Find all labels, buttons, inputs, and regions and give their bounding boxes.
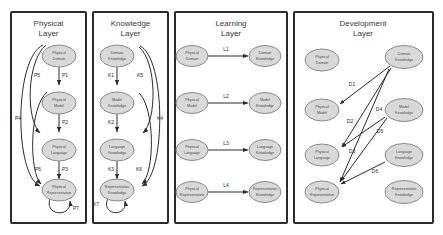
node-label-model-knowledge-1: Model — [112, 98, 122, 102]
panel-title-physical-2: Layer — [38, 29, 58, 38]
node-label-l-physical-model-2: Model — [187, 104, 197, 108]
node-label-l-physical-representation-1: Physical — [185, 187, 199, 191]
node-label-l-physical-domain-2: Domain — [186, 57, 198, 61]
node-label-l-model-knowledge-2: Knowledge — [256, 104, 274, 108]
edge-label-K6: K6 — [136, 166, 142, 172]
node-label-d-physical-model-1: Physical — [315, 105, 329, 109]
node-label-d-representation-knowledge-2: Knowledge — [395, 193, 413, 197]
panel-title-knowledge-2: Layer — [120, 29, 140, 38]
node-label-l-physical-representation-2: Representation — [180, 193, 204, 197]
node-label-physical-representation-2: Representation — [47, 191, 71, 195]
node-label-d-physical-representation-1: Physical — [315, 187, 329, 191]
edge-label-P4: P4 — [15, 115, 21, 121]
node-label-domain-knowledge-2: Knowledge — [108, 57, 126, 61]
edge-label-D4: D4 — [376, 106, 383, 112]
node-label-language-knowledge-1: Language — [109, 145, 125, 149]
node-label-domain-knowledge-1: Domain — [111, 51, 123, 55]
edge-label-P5: P5 — [34, 72, 40, 78]
node-label-l-representation-knowledge-1: Representation — [253, 187, 277, 191]
node-label-model-knowledge-2: Knowledge — [108, 104, 126, 108]
node-label-l-physical-domain-1: Physical — [185, 51, 199, 55]
node-label-physical-domain-1: Physical — [52, 51, 66, 55]
node-label-d-language-knowledge-2: Knowledge — [395, 156, 413, 160]
node-label-l-model-knowledge-1: Model — [260, 98, 270, 102]
node-label-l-language-knowledge-1: Language — [257, 145, 273, 149]
node-label-physical-model-1: Physical — [52, 98, 66, 102]
node-label-l-physical-language-2: Language — [184, 151, 200, 155]
node-label-d-language-knowledge-1: Language — [396, 150, 412, 154]
panel-title-learning-2: Layer — [221, 29, 241, 38]
edge-label-K1: K1 — [108, 72, 114, 78]
node-label-d-domain-knowledge-2: Knowledge — [395, 58, 413, 62]
node-label-d-model-knowledge-1: Model — [399, 105, 409, 109]
panel-title-learning: Learning — [215, 19, 246, 28]
node-label-language-knowledge-2: Knowledge — [108, 151, 126, 155]
edge-label-K4: K4 — [157, 115, 163, 121]
edge-label-D1: D1 — [349, 81, 356, 87]
node-label-d-physical-domain-1: Physical — [315, 55, 329, 59]
node-label-d-representation-knowledge-1: Representation — [392, 187, 416, 191]
edge-label-P2: P2 — [62, 119, 68, 125]
node-label-d-physical-representation-2: Representation — [310, 193, 334, 197]
node-label-representation-knowledge-2: Knowledge — [108, 191, 126, 195]
node-label-d-physical-language-1: Physical — [315, 150, 329, 154]
node-label-l-physical-language-1: Physical — [185, 145, 199, 149]
edge-label-L4: L4 — [223, 182, 229, 188]
edge-label-K7: K7 — [93, 201, 99, 207]
node-label-physical-model-2: Model — [54, 104, 64, 108]
edge-label-P1: P1 — [62, 72, 68, 78]
node-label-l-language-knowledge-2: Knowledge — [256, 151, 274, 155]
node-label-d-domain-knowledge-1: Domain — [398, 52, 410, 56]
node-label-d-model-knowledge-2: Knowledge — [395, 111, 413, 115]
node-label-d-physical-model-2: Model — [317, 111, 327, 115]
node-label-l-representation-knowledge-2: Knowledge — [256, 193, 274, 197]
edge-label-P3: P3 — [62, 166, 68, 172]
edge-label-K5: K5 — [137, 72, 143, 78]
panel-title-development-2: Layer — [353, 29, 373, 38]
node-label-physical-domain-2: Domain — [53, 57, 65, 61]
diagram-canvas: Physical Layer Physical Domain Physical … — [0, 0, 443, 235]
edge-label-K2: K2 — [108, 119, 114, 125]
edge-label-P6: P6 — [35, 166, 41, 172]
edge-label-L2: L2 — [223, 93, 229, 99]
node-label-d-physical-language-2: Language — [314, 156, 330, 160]
edge-label-D6: D6 — [372, 168, 379, 174]
node-label-representation-knowledge-1: Representation — [105, 185, 129, 189]
edge-label-K3: K3 — [108, 166, 114, 172]
node-label-l-domain-knowledge-2: Knowledge — [256, 57, 274, 61]
edge-label-D5: D5 — [377, 128, 384, 134]
edge-label-L1: L1 — [223, 46, 229, 52]
node-label-physical-representation-1: Physical — [52, 185, 66, 189]
node-label-physical-language-2: Language — [51, 151, 67, 155]
node-label-l-domain-knowledge-1: Domain — [259, 51, 271, 55]
panel-title-knowledge: Knowledge — [111, 19, 151, 28]
edge-label-D2: D2 — [347, 118, 354, 124]
edge-label-D3: D3 — [349, 148, 356, 154]
panel-title-development: Development — [339, 19, 387, 28]
node-label-physical-language-1: Physical — [52, 145, 66, 149]
panel-title-physical: Physical — [34, 19, 64, 28]
node-label-l-physical-model-1: Physical — [185, 98, 199, 102]
node-label-d-physical-domain-2: Domain — [316, 61, 328, 65]
edge-label-L3: L3 — [223, 140, 229, 146]
edge-label-P7: P7 — [73, 205, 79, 211]
